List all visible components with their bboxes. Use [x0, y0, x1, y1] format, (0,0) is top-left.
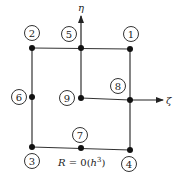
node-2-point — [29, 45, 35, 51]
node-4-point — [127, 147, 133, 153]
node-3-point — [29, 144, 35, 150]
node-5-label: 5 — [66, 29, 72, 40]
finite-element-diagram: η ζ 1 2 3 4 5 6 7 8 9 R = 0(h3) — [0, 0, 178, 183]
formula-close: ) — [101, 157, 105, 168]
edge-internal-horizontal — [81, 98, 130, 100]
axes — [81, 16, 163, 100]
error-order-formula: R = 0(h3) — [57, 156, 105, 168]
node-7-label: 7 — [77, 130, 83, 141]
node-6-label: 6 — [16, 92, 22, 103]
node-5-point — [78, 45, 84, 51]
node-6-point — [29, 94, 35, 100]
eta-axis-label: η — [78, 2, 84, 13]
node-9-label: 9 — [64, 93, 70, 104]
node-9-point — [78, 95, 84, 101]
node-2-label: 2 — [29, 28, 35, 39]
node-7-point — [78, 145, 84, 151]
node-1-point — [127, 46, 133, 52]
node-8-point — [127, 97, 133, 103]
node-8-label: 8 — [115, 81, 121, 92]
formula-eq: = 0( — [66, 157, 91, 168]
node-3-label: 3 — [29, 156, 35, 167]
node-4-label: 4 — [126, 159, 132, 170]
zeta-axis-label: ζ — [166, 95, 172, 106]
node-1-label: 1 — [128, 29, 134, 40]
